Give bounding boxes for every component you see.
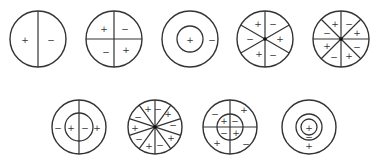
minus-sign: − [47, 35, 55, 45]
row-2: −+−++−+−+−+−+−+−−+−++−+−+ [52, 100, 336, 154]
plus-sign: + [144, 104, 152, 114]
plus-sign: + [164, 109, 172, 119]
plus-sign: + [220, 116, 228, 126]
plus-sign: + [323, 41, 331, 51]
circle-figure-c7: +−+−+−+−+− [128, 100, 182, 154]
circle-figure-c1: +− [10, 11, 66, 67]
plus-sign: + [240, 105, 248, 115]
circle-figure-c2: +−−+ [86, 11, 142, 67]
plus-sign: + [232, 128, 240, 138]
plus-sign: + [331, 19, 339, 29]
circle-figure-c4: +−+−+− [237, 11, 293, 67]
minus-sign: − [154, 104, 162, 114]
minus-sign: − [102, 47, 110, 57]
minus-sign: − [135, 134, 143, 144]
center-dot [153, 125, 157, 129]
plus-sign: + [21, 35, 29, 45]
minus-sign: − [330, 52, 338, 62]
circle-figure-c6: −+−+ [52, 100, 106, 154]
plus-sign: + [213, 138, 221, 148]
circle-figure-c8: +−−+−++− [203, 100, 257, 154]
plus-sign: + [93, 123, 101, 133]
plus-sign: + [276, 34, 284, 44]
row-1: +−+−−++−+−+−+−+−+−+−+− [10, 11, 369, 67]
circle-figure-c5: +−+−+−+− [313, 11, 369, 67]
plus-sign: + [345, 51, 353, 61]
plus-sign: + [353, 28, 361, 38]
minus-sign: − [121, 24, 129, 34]
diagram-canvas: +−+−−++−+−+−+−+−+−+−+−−+−++−+−+−+−+−+−−+… [0, 0, 378, 166]
minus-sign: − [246, 34, 254, 44]
minus-sign: − [54, 123, 62, 133]
circle-figure-c9: +−+ [282, 100, 336, 154]
minus-sign: − [169, 120, 177, 130]
center-dot [263, 37, 267, 41]
plus-sign: + [167, 133, 175, 143]
plus-sign: + [67, 123, 75, 133]
minus-sign: − [345, 19, 353, 29]
minus-sign: − [353, 42, 361, 52]
plus-sign: + [131, 123, 139, 133]
minus-sign: − [269, 50, 277, 60]
plus-sign: + [255, 49, 263, 59]
plus-sign: + [145, 141, 153, 151]
minus-sign: − [211, 109, 219, 119]
minus-sign: − [208, 35, 216, 45]
minus-sign: − [220, 128, 228, 138]
plus-sign: + [254, 19, 262, 29]
minus-sign: − [81, 123, 89, 133]
plus-sign: + [100, 24, 108, 34]
plus-sign: + [122, 45, 130, 55]
minus-sign: − [134, 112, 142, 122]
center-dot [339, 37, 343, 41]
minus-sign: − [269, 19, 277, 29]
plus-sign: + [186, 35, 194, 45]
minus-sign: − [231, 116, 239, 126]
plus-sign: + [305, 141, 313, 151]
minus-sign: − [323, 28, 331, 38]
circle-figure-c3: +− [162, 11, 218, 67]
minus-sign: − [242, 139, 250, 149]
minus-sign: − [156, 140, 164, 150]
